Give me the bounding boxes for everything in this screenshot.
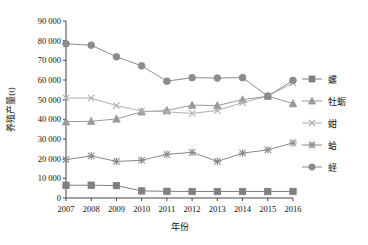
data-point-circle (214, 75, 221, 82)
line-chart: 养殖产量(t) 010 00020 00030 00040 00050 0006… (0, 0, 368, 245)
data-point-circle (290, 77, 297, 84)
chart-canvas: 养殖产量(t) 010 00020 00030 00040 00050 0006… (0, 0, 368, 245)
data-point-asterisk (239, 149, 247, 157)
y-axis-tick-label: 50 000 (38, 95, 61, 105)
x-axis-title-label: 年份 (171, 221, 189, 232)
data-point-asterisk (289, 139, 297, 147)
legend-label: 蚶 (328, 119, 337, 129)
x-axis-tick-label: 2014 (234, 204, 252, 214)
y-axis-tick-label: 10 000 (38, 173, 61, 183)
y-axis-tick-label: 30 000 (38, 134, 61, 144)
x-axis-tick-label: 2012 (184, 204, 201, 214)
data-point-asterisk (264, 146, 272, 154)
y-axis-title-label: 养殖产量(t) (5, 87, 16, 132)
data-point-circle (309, 164, 315, 170)
data-point-square (113, 182, 119, 188)
x-axis-tick-label: 2008 (83, 204, 100, 214)
legend-label: 蛏 (328, 162, 337, 173)
data-point-square (309, 76, 315, 82)
data-point-circle (239, 74, 246, 81)
x-axis-tick-label: 2016 (285, 204, 302, 214)
legend-label: 螺 (328, 75, 337, 85)
legend-label: 牡蛎 (328, 96, 346, 107)
data-point-square (88, 182, 94, 188)
data-point-asterisk (188, 149, 196, 157)
data-point-asterisk (62, 156, 70, 164)
data-point-square (290, 188, 296, 194)
x-axis-tick-label: 2007 (58, 204, 75, 214)
data-point-circle (138, 62, 145, 69)
data-point-square (265, 188, 271, 194)
x-axis-tick-label: 2009 (108, 204, 125, 214)
data-point-square (214, 188, 220, 194)
data-point-square (189, 188, 195, 194)
data-point-asterisk (138, 156, 146, 164)
data-point-circle (88, 42, 95, 49)
y-axis-tick-label: 40 000 (38, 114, 61, 124)
x-axis-tick-label: 2011 (159, 204, 176, 214)
y-axis-tick-label: 80 000 (38, 36, 61, 46)
data-point-square (239, 188, 245, 194)
data-point-asterisk (308, 141, 315, 148)
x-axis-tick-label: 2013 (209, 204, 226, 214)
legend-label: 蛤 (328, 140, 337, 151)
data-point-circle (189, 74, 196, 81)
data-point-square (164, 188, 170, 194)
y-axis-tick-label: 20 000 (38, 154, 61, 164)
y-axis-tick-label: 90 000 (38, 16, 61, 26)
y-axis-tick-label: 0 (57, 193, 61, 203)
y-axis-title: 养殖产量(t) (5, 87, 16, 132)
data-point-circle (63, 40, 70, 47)
data-point-asterisk (87, 152, 95, 160)
data-point-square (63, 182, 69, 188)
data-point-asterisk (214, 158, 222, 166)
y-axis-tick-label: 60 000 (38, 75, 61, 85)
data-point-circle (264, 93, 271, 100)
x-axis-tick-label: 2015 (259, 204, 276, 214)
data-point-asterisk (113, 158, 121, 166)
data-point-circle (163, 78, 170, 85)
x-axis-tick-label: 2010 (133, 204, 150, 214)
data-point-circle (113, 53, 120, 60)
data-point-asterisk (163, 151, 171, 159)
data-point-square (138, 188, 144, 194)
y-axis-tick-label: 70 000 (38, 55, 61, 65)
